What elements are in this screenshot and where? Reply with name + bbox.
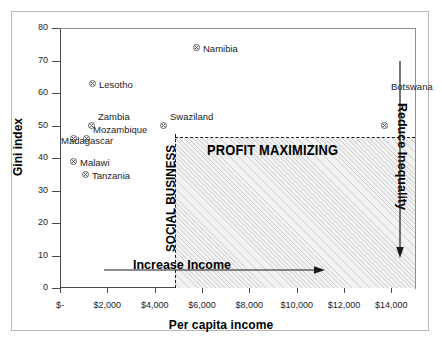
profit-maximizing-boundary-dashed bbox=[175, 137, 415, 138]
data-point-marker bbox=[193, 44, 200, 51]
data-point-label: Mozambique bbox=[93, 125, 147, 135]
data-point-marker bbox=[82, 171, 89, 178]
data-point-marker bbox=[70, 158, 77, 165]
increase-income-arrow bbox=[104, 264, 326, 276]
data-point-marker bbox=[160, 122, 167, 129]
x-tick-label: $6,000 bbox=[188, 300, 216, 310]
data-point-marker bbox=[381, 122, 388, 129]
x-tick-label: $14,000 bbox=[375, 300, 408, 310]
profit-maximizing-label: PROFIT MAXIMIZING bbox=[207, 142, 338, 158]
data-point-marker bbox=[89, 80, 96, 87]
x-axis-title: Per capita income bbox=[0, 318, 442, 332]
y-tick-label: 10 bbox=[18, 251, 48, 260]
chart-figure: 0 10 20 30 40 50 60 70 80 $- $2,000 $4,0… bbox=[0, 0, 442, 344]
y-axis-title: Gini index bbox=[11, 77, 25, 217]
x-tick-label: $2,000 bbox=[94, 300, 122, 310]
y-tick-label: 70 bbox=[18, 56, 48, 65]
x-tick-label: $4,000 bbox=[141, 300, 169, 310]
data-point-label: Lesotho bbox=[99, 80, 133, 90]
plot-top-border bbox=[60, 28, 415, 29]
y-tick-label: 0 bbox=[18, 283, 48, 292]
social-business-label: SOCIAL BUSINESS bbox=[163, 145, 178, 252]
x-tick-label: $10,000 bbox=[280, 300, 313, 310]
data-point-label: Namibia bbox=[203, 44, 238, 54]
x-tick-label: $8,000 bbox=[236, 300, 264, 310]
y-tick-label: 80 bbox=[18, 23, 48, 32]
data-point-label: Madagascar bbox=[61, 136, 113, 146]
data-point-label: Zambia bbox=[98, 112, 130, 122]
plot-right-border bbox=[415, 28, 416, 289]
x-tick-label: $- bbox=[56, 300, 64, 310]
data-point-label: Malawi bbox=[80, 158, 110, 168]
x-tick-label: $12,000 bbox=[328, 300, 361, 310]
data-point-label: Tanzania bbox=[92, 171, 130, 181]
y-tick-label: 20 bbox=[18, 218, 48, 227]
data-point-label: Swaziland bbox=[170, 112, 213, 122]
reduce-inequality-arrow bbox=[394, 61, 406, 259]
